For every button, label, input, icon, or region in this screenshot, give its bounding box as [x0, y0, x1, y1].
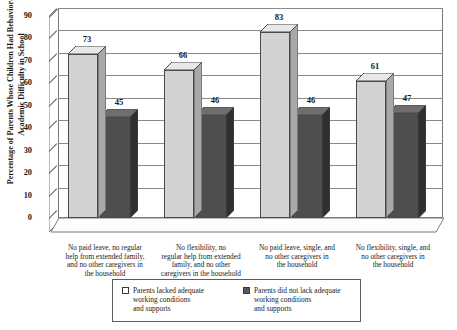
- bar-lacked-group-2: [164, 62, 194, 218]
- x-category-label-2-line4: caregivers in the household: [161, 269, 241, 278]
- bar-side-face: [194, 62, 202, 218]
- plot-floor: [50, 217, 444, 232]
- legend-label-lacked-line1: Parents lacked adequate: [133, 286, 204, 295]
- x-category-label-3-line3: the household: [277, 260, 318, 269]
- bar-side-face: [98, 46, 106, 218]
- data-label-not-lacked-group-1: 45: [104, 98, 134, 107]
- data-label-lacked-group-2: 66: [168, 51, 198, 60]
- y-tick-label-90: 90: [12, 12, 32, 20]
- x-category-label-4: No flexibility, single, andno other care…: [340, 244, 446, 270]
- bar-top-face: [356, 73, 394, 81]
- gridline-80: [59, 30, 443, 31]
- y-tick-label-0: 0: [12, 214, 32, 222]
- data-label-not-lacked-group-3: 46: [296, 96, 326, 105]
- bar-lacked-group-1: [68, 46, 98, 218]
- bar-side-face: [130, 109, 138, 218]
- x-category-label-1-line4: the household: [85, 269, 126, 278]
- x-category-label-3: No paid leave, single, andno other careg…: [244, 244, 350, 270]
- bar-side-face: [322, 107, 330, 218]
- y-tick-label-30: 30: [12, 147, 32, 155]
- legend-label-not-lacked-line2: working conditions: [254, 295, 311, 304]
- bar-front-face: [68, 54, 98, 218]
- data-label-not-lacked-group-2: 46: [200, 96, 230, 105]
- legend-label-lacked-line2: working conditions: [133, 295, 190, 304]
- bar-front-face: [356, 81, 386, 218]
- data-label-lacked-group-3: 83: [264, 13, 294, 22]
- data-label-not-lacked-group-4: 47: [392, 94, 422, 103]
- gridline-90: [59, 8, 443, 9]
- legend-label-not-lacked-line3: and supports: [254, 304, 292, 313]
- legend-label-not-lacked-line1: Parents did not lack adequate: [254, 286, 341, 295]
- legend-item-not-lacked[interactable]: Parents did not lack adequate working co…: [243, 286, 360, 313]
- data-label-lacked-group-1: 73: [72, 35, 102, 44]
- legend-swatch-dark-icon: [243, 287, 250, 294]
- chart-plot-area: 0102030405060708090 7345664683466147 No …: [36, 8, 446, 232]
- y-tick-label-50: 50: [12, 102, 32, 110]
- bar-front-face: [164, 70, 194, 218]
- data-label-lacked-group-4: 61: [360, 62, 390, 71]
- bar-lacked-group-4: [356, 73, 386, 218]
- legend-swatch-light-icon: [122, 287, 129, 294]
- bar-top-face: [164, 62, 202, 70]
- legend-label-lacked-line3: and supports: [133, 304, 171, 313]
- bar-side-face: [290, 24, 298, 218]
- bar-side-face: [226, 107, 234, 218]
- bar-lacked-group-3: [260, 24, 290, 218]
- legend-label-not-lacked: Parents did not lack adequate working co…: [254, 286, 341, 313]
- x-category-label-1: No paid leave, no regularhelp from exten…: [52, 244, 158, 278]
- legend-label-lacked: Parents lacked adequate working conditio…: [133, 286, 204, 313]
- x-category-label-4-line3: the household: [373, 260, 414, 269]
- y-tick-label-20: 20: [12, 169, 32, 177]
- x-category-label-2: No flexibility, noregular help from exte…: [148, 244, 254, 278]
- gridline-70: [59, 53, 443, 54]
- y-tick-label-80: 80: [12, 34, 32, 42]
- y-tick-label-60: 60: [12, 79, 32, 87]
- y-tick-label-40: 40: [12, 124, 32, 132]
- bar-front-face: [260, 32, 290, 218]
- chart-legend: Parents lacked adequate working conditio…: [112, 279, 361, 322]
- y-axis-title: Percentage of Parents Whose Children Had…: [6, 0, 27, 188]
- bar-top-face: [260, 24, 298, 32]
- y-tick-label-70: 70: [12, 57, 32, 65]
- bar-side-face: [418, 105, 426, 218]
- y-tick-label-10: 10: [12, 192, 32, 200]
- bar-top-face: [68, 46, 106, 54]
- legend-item-lacked[interactable]: Parents lacked adequate working conditio…: [122, 286, 239, 313]
